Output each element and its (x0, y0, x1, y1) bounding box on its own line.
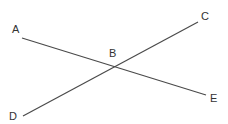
line-dc (23, 22, 198, 116)
label-d: D (9, 110, 17, 122)
label-a: A (12, 23, 20, 35)
label-e: E (210, 92, 217, 104)
geometry-diagram: A C B D E (0, 0, 228, 124)
label-b: B (109, 47, 116, 59)
label-c: C (201, 10, 209, 22)
